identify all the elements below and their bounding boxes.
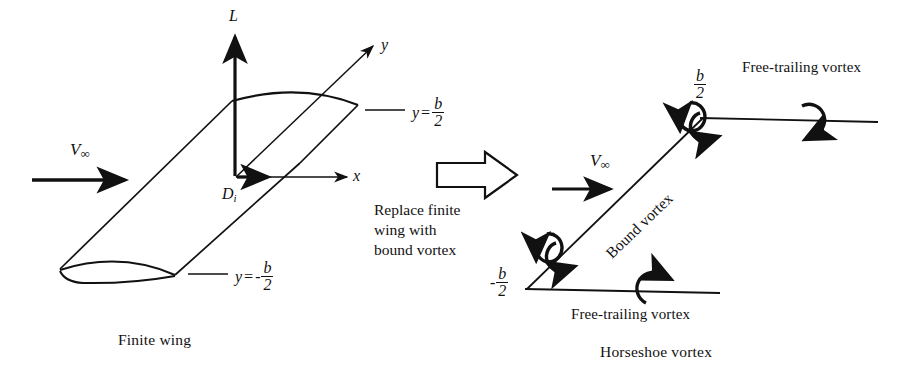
free-trailing-line-bottom — [525, 289, 720, 293]
figure-canvas: V∞ L y x Di y=b2 y=-b2 Finite wing Repla… — [0, 0, 911, 375]
diagram-vector-layer — [0, 0, 911, 375]
caption-finite-wing: Finite wing — [118, 332, 191, 348]
tip-label-upper-left: y=b2 — [412, 96, 444, 130]
replace-instruction-text: Replace finite wing with bound vortex — [374, 200, 461, 260]
replace-line-3: bound vortex — [374, 240, 461, 260]
spanwise-axis-label: y — [381, 37, 388, 53]
circulation-curl-lower-junction — [536, 234, 563, 271]
tip-label-lower-right: -b2 — [490, 266, 508, 300]
free-trailing-label-bottom: Free-trailing vortex — [571, 307, 690, 322]
bound-vortex-line — [527, 118, 703, 289]
wing-planform — [60, 92, 358, 275]
freestream-label-left: V∞ — [70, 141, 89, 160]
lift-axis-label: L — [229, 8, 238, 24]
bound-vortex-label: Bound vortex — [603, 190, 676, 261]
induced-drag-label: Di — [222, 186, 237, 204]
free-trailing-label-top: Free-trailing vortex — [742, 60, 861, 75]
circulation-curl-lower-trailing — [637, 272, 660, 303]
airfoil-section — [60, 262, 175, 284]
free-trailing-line-top — [700, 118, 878, 122]
replace-line-1: Replace finite — [374, 200, 461, 220]
freestream-label-right: V∞ — [590, 152, 609, 171]
replace-line-2: wing with — [374, 220, 461, 240]
circulation-curl-upper-junction — [679, 103, 707, 141]
tip-label-lower-left: y=-b2 — [235, 260, 273, 294]
tip-label-upper-right: b2 — [694, 68, 706, 102]
caption-horseshoe-vortex: Horseshoe vortex — [600, 344, 712, 360]
spanwise-axis — [236, 46, 373, 177]
replace-block-arrow-icon — [437, 152, 517, 198]
chordwise-axis-label: x — [353, 168, 360, 184]
circulation-curl-upper-trailing — [802, 104, 825, 134]
